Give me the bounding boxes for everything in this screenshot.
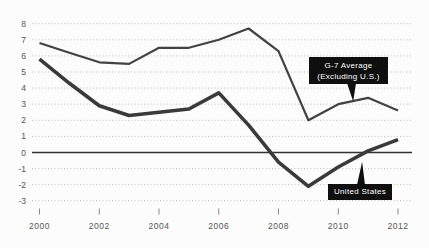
y-tick-label-6: 6 — [21, 51, 26, 61]
chart-canvas: 876543210-1-2-32000200220042006200820102… — [0, 0, 429, 248]
x-tick-label-2010: 2010 — [328, 221, 349, 231]
y-tick-label-3: 3 — [21, 99, 26, 109]
x-tick-label-2002: 2002 — [89, 221, 110, 231]
g7-average-callout-line1: G-7 Average — [309, 60, 388, 71]
x-tick-label-2008: 2008 — [268, 221, 289, 231]
y-tick-label-1: 1 — [21, 131, 26, 141]
x-tick-label-2006: 2006 — [208, 221, 229, 231]
y-tick-label-8: 8 — [21, 19, 26, 29]
g7-average-callout-line2: (Excluding U.S.) — [309, 71, 388, 82]
united-states-callout: United States — [328, 184, 392, 200]
g7-callout-pointer — [347, 83, 356, 102]
y-tick-label-2: 2 — [21, 115, 26, 125]
x-tick-label-2000: 2000 — [29, 221, 50, 231]
x-tick-label-2012: 2012 — [388, 221, 409, 231]
y-tick-label--2: -2 — [18, 180, 26, 190]
y-tick-label-5: 5 — [21, 67, 26, 77]
y-tick-label--3: -3 — [18, 196, 26, 206]
y-tick-label--1: -1 — [18, 164, 26, 174]
line-chart: 876543210-1-2-32000200220042006200820102… — [0, 0, 429, 248]
g7-average-callout: G-7 Average (Excluding U.S.) — [309, 57, 388, 84]
y-tick-label-7: 7 — [21, 35, 26, 45]
us-callout-pointer — [357, 162, 365, 185]
x-tick-label-2004: 2004 — [149, 221, 170, 231]
y-tick-label-4: 4 — [21, 83, 26, 93]
y-tick-label-0: 0 — [21, 148, 26, 158]
united-states-callout-label: United States — [334, 187, 386, 196]
